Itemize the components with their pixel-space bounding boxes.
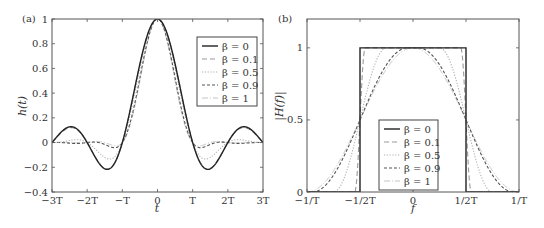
y-tick-label: 0.2: [32, 112, 48, 123]
x-tick-label: T: [189, 195, 196, 206]
x-tick-label: −1/2T: [344, 195, 375, 206]
legend-a: β = 0β = 0.1β = 0.5β = 0.9β = 1: [197, 37, 258, 106]
legend-entry: β = 0: [222, 41, 249, 52]
legend-entry: β = 1: [404, 176, 431, 187]
figure: (a) −3T−2T−T0T2T3T−0.4−0.200.20.40.60.81…: [0, 0, 544, 228]
y-tick-label: 0.4: [32, 88, 48, 99]
x-tick-label: −2T: [76, 195, 98, 206]
legend-entry: β = 0: [404, 124, 431, 135]
y-tick-label: −0.4: [24, 187, 48, 198]
x-tick-label: −T: [115, 195, 130, 206]
y-tick-label: 0.6: [32, 63, 48, 74]
x-tick-label: 3T: [256, 195, 269, 206]
legend-entry: β = 0.9: [222, 80, 258, 91]
y-tick-label: 0.5: [287, 114, 303, 125]
legend-entry: β = 0.1: [222, 54, 258, 65]
y-tick-label: 0: [42, 137, 48, 148]
legend-b: β = 0β = 0.1β = 0.5β = 0.9β = 1: [379, 120, 440, 190]
legend-entry: β = 0.1: [404, 137, 440, 148]
y-axis-label-a: h(t): [16, 96, 29, 116]
panel-label-a: (a): [22, 13, 36, 24]
y-tick-label: 1: [297, 42, 303, 53]
y-axis-label-b: |H(f)|: [273, 91, 287, 121]
panel-label-b: (b): [278, 13, 292, 24]
y-tick-label: 1: [42, 14, 48, 25]
chart-panel-a: (a) −3T−2T−T0T2T3T−0.4−0.200.20.40.60.81…: [16, 13, 270, 215]
legend-entry: β = 0.5: [222, 67, 258, 78]
legend-entry: β = 1: [222, 93, 249, 104]
x-tick-label: 1/2T: [455, 195, 478, 206]
x-axis-label-a: t: [155, 202, 160, 215]
y-tick-label: 0.8: [32, 38, 48, 49]
legend-entry: β = 0.5: [404, 150, 440, 161]
y-tick-label: −0.2: [24, 162, 48, 173]
chart-panel-b: (b) −1/T−1/2T01/2T1/T00.51 f |H(f)| β = …: [273, 13, 528, 215]
y-tick-label: 0: [297, 187, 303, 198]
x-tick-label: 2T: [221, 195, 234, 206]
legend-entry: β = 0.9: [404, 163, 440, 174]
x-tick-label: 1/T: [511, 195, 528, 206]
